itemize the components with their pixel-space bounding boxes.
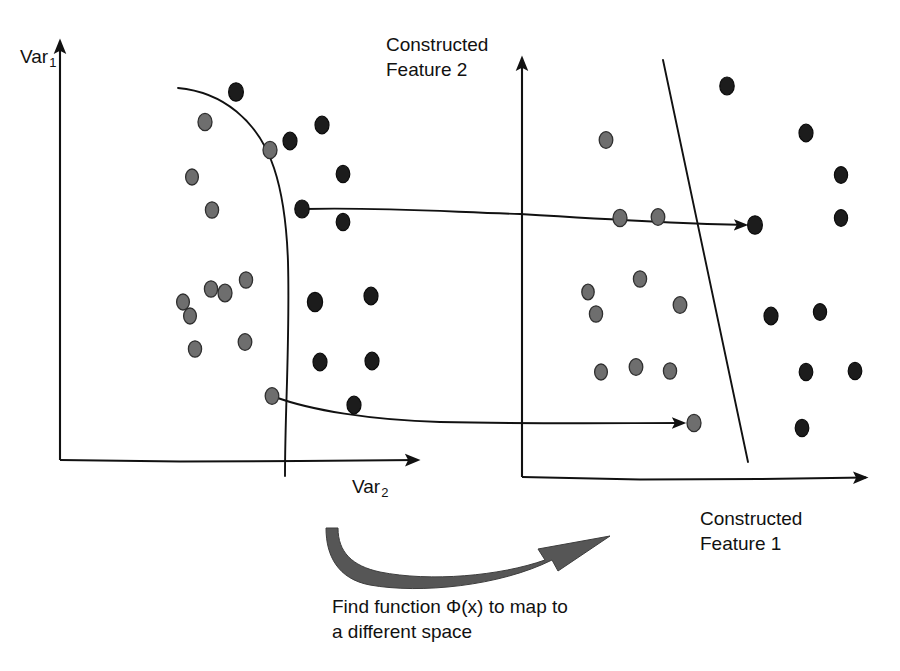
left-x-axis-label: Var2 [352, 474, 388, 499]
data-point [188, 341, 201, 357]
data-point [813, 304, 826, 321]
data-point [336, 213, 350, 230]
data-point [365, 352, 379, 370]
data-point [239, 272, 252, 288]
data-point [834, 167, 847, 184]
data-point [595, 364, 608, 380]
data-point [599, 132, 613, 149]
data-point [336, 165, 350, 182]
right-y-axis-label-line2: Feature 2 [386, 57, 488, 82]
data-point [265, 388, 279, 405]
data-point [263, 141, 277, 158]
data-point [238, 334, 252, 351]
left-x-axis-label-text: Var [352, 476, 380, 497]
data-point [799, 124, 813, 142]
data-point [315, 116, 329, 134]
right-x-axis [522, 477, 866, 480]
data-point [313, 353, 327, 371]
data-point [748, 216, 763, 234]
data-point [186, 169, 199, 185]
left-y-axis-label-text: Var [20, 46, 48, 67]
left-class-b-points [229, 83, 379, 414]
transform-caption-line1: Find function Φ(x) to map to [332, 594, 568, 619]
transform-caption: Find function Φ(x) to map toa different … [332, 594, 568, 644]
data-point [229, 83, 244, 101]
data-point [283, 132, 297, 150]
left-x-axis [60, 460, 418, 462]
phi-transform-arrow [326, 528, 610, 589]
data-point [799, 363, 813, 380]
data-point [687, 414, 701, 431]
data-point [364, 287, 378, 305]
data-point [184, 308, 197, 324]
data-point [582, 284, 594, 300]
right-class-b-points [720, 77, 862, 437]
data-point [218, 284, 232, 302]
diagram-vector-layer [0, 0, 900, 671]
data-point [589, 306, 602, 322]
data-point [764, 307, 778, 325]
data-point [720, 77, 734, 95]
data-point [205, 202, 218, 218]
linear-decision-boundary [663, 60, 748, 462]
right-x-axis-label-line2: Feature 1 [700, 531, 802, 556]
left-y-axis-label-subscript: 1 [48, 55, 56, 70]
left-x-axis-label-subscript: 2 [380, 485, 388, 500]
right-y-axis-label: ConstructedFeature 2 [386, 32, 488, 82]
diagram-canvas: Var1 Var2 ConstructedFeature 2 Construct… [0, 0, 900, 671]
data-point [198, 113, 212, 130]
left-class-a-points [177, 113, 279, 404]
transform-caption-line2: a different space [332, 619, 568, 644]
data-point [673, 297, 687, 314]
right-x-axis-label-line1: Constructed [700, 506, 802, 531]
data-point [848, 362, 862, 379]
data-point [307, 292, 322, 311]
data-point [834, 210, 847, 227]
right-class-a-points [582, 132, 701, 432]
data-point [613, 209, 627, 226]
data-point [177, 294, 190, 310]
data-point [633, 271, 646, 287]
data-point [629, 359, 643, 376]
right-x-axis-label: ConstructedFeature 1 [700, 506, 802, 556]
data-point [204, 281, 217, 297]
data-point [795, 419, 809, 436]
upper-mapping-arrow [304, 209, 746, 225]
lower-mapping-arrow [275, 397, 684, 423]
data-point [295, 200, 309, 218]
data-point [651, 209, 665, 226]
data-point [663, 363, 676, 379]
data-point [347, 396, 361, 414]
right-y-axis-label-line1: Constructed [386, 32, 488, 57]
left-y-axis-label: Var1 [20, 44, 56, 69]
left-panel-axes [60, 41, 418, 462]
